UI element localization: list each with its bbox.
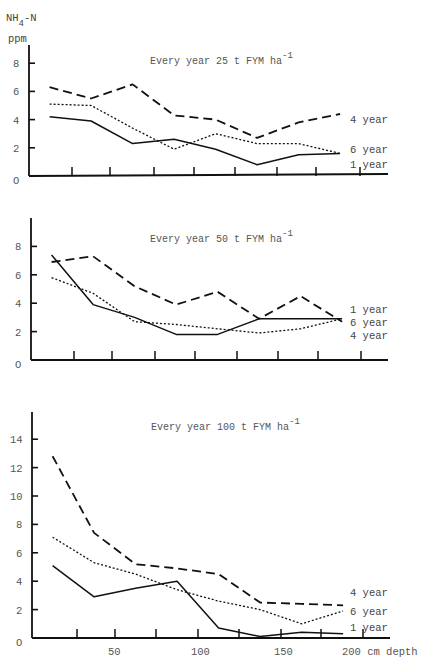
y-tick-label: 4 bbox=[13, 115, 19, 127]
y-tick-label: 2 bbox=[13, 143, 19, 155]
chart-canvas: NH4-N ppm 8642OEvery year 25 t FYM ha-14… bbox=[0, 0, 427, 658]
y-tick-label: 6 bbox=[13, 86, 19, 98]
x-tick-label: 50 bbox=[108, 646, 121, 658]
y-tick-label: O bbox=[13, 175, 19, 187]
series-line-4-year bbox=[52, 256, 343, 321]
y-tick-label: 4 bbox=[15, 298, 21, 310]
panel-title: Every year 100 t FYM ha-1 bbox=[151, 417, 300, 433]
y-tick-label: 2 bbox=[15, 327, 21, 339]
series-line-1-year bbox=[52, 255, 343, 335]
legend-label: 4 year bbox=[350, 587, 388, 599]
y-tick-label: 4 bbox=[16, 576, 22, 588]
panel-title: Every year 25 t FYM ha-1 bbox=[150, 51, 293, 67]
chart-panel-1: 8642OEvery year 25 t FYM ha-14 year6 yea… bbox=[13, 45, 388, 187]
y-tick-label: 12 bbox=[10, 463, 23, 475]
y-tick-label: 8 bbox=[13, 58, 19, 70]
legend-label: 6 year bbox=[350, 606, 388, 618]
x-tick-label: 150 bbox=[274, 646, 293, 658]
panel-title: Every year 50 t FYM ha-1 bbox=[150, 229, 293, 245]
legend-label: 4 year bbox=[350, 330, 388, 342]
x-tick-label: 200 cm depth bbox=[342, 646, 418, 658]
series-line-6-year bbox=[53, 537, 344, 624]
chart-panel-2: 8642OEvery year 50 t FYM ha-11 year6 yea… bbox=[15, 218, 388, 371]
y-tick-label: 14 bbox=[10, 434, 23, 446]
y-tick-label: 10 bbox=[10, 491, 23, 503]
series-line-6-year bbox=[50, 104, 341, 153]
y-tick-label: 6 bbox=[15, 270, 21, 282]
x-axis-line bbox=[29, 174, 388, 176]
y-tick-label: O bbox=[15, 359, 21, 371]
y-tick-label: 6 bbox=[16, 548, 22, 560]
legend-label: 1 year bbox=[350, 622, 388, 634]
y-axis-label: NH4-N bbox=[6, 12, 37, 29]
y-tick-label: 8 bbox=[16, 519, 22, 531]
series-line-1-year bbox=[53, 566, 344, 637]
legend-label: 1 year bbox=[350, 159, 388, 171]
chart-panel-3: 1412108642O50100150200 cm depthEvery yea… bbox=[10, 412, 418, 658]
legend-label: 6 year bbox=[350, 317, 388, 329]
y-tick-label: 8 bbox=[15, 241, 21, 253]
x-tick-label: 100 bbox=[191, 646, 210, 658]
y-axis-unit: ppm bbox=[8, 33, 27, 45]
legend-label: 6 year bbox=[350, 144, 388, 156]
y-tick-label: 2 bbox=[16, 605, 22, 617]
legend-label: 4 year bbox=[350, 114, 388, 126]
series-line-4-year bbox=[50, 84, 341, 137]
series-line-4-year bbox=[53, 456, 344, 605]
y-tick-label: O bbox=[16, 637, 22, 649]
legend-label: 1 year bbox=[350, 304, 388, 316]
